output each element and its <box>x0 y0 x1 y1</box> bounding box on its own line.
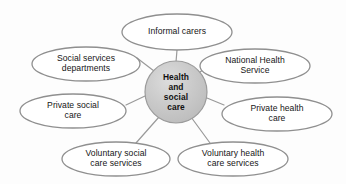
center-to-private-social-care <box>126 96 145 105</box>
node-ellipse-voluntary-health-care-services[interactable] <box>178 142 288 176</box>
node-ellipse-private-social-care[interactable] <box>20 94 126 128</box>
concept-map-diagram: Informal carersSocial services departmen… <box>0 0 346 184</box>
node-ellipse-social-services-departments[interactable] <box>32 47 140 81</box>
center-to-private-health-care <box>207 98 224 105</box>
node-ellipse-national-health-service[interactable] <box>200 49 310 83</box>
node-ellipse-voluntary-social-care-services[interactable] <box>62 142 170 176</box>
center-node-label: Health and social care <box>145 61 207 123</box>
node-ellipse-private-health-care[interactable] <box>222 97 332 131</box>
node-ellipse-informal-carers[interactable] <box>122 14 232 50</box>
